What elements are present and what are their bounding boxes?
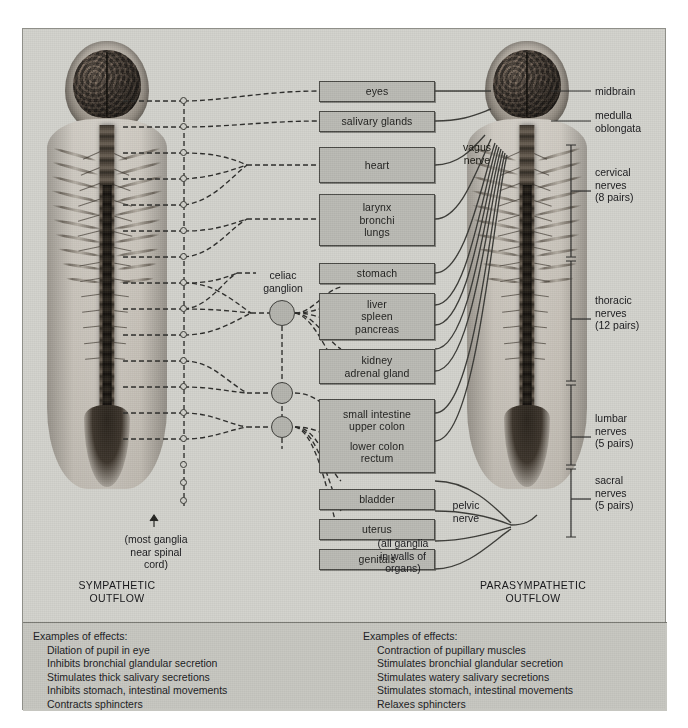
- all-ganglia-note: (all ganglia in walls of organs): [355, 537, 451, 575]
- effect-item: Contraction of pupillary muscles: [377, 644, 667, 658]
- effects-heading: Examples of effects:: [363, 630, 667, 644]
- effect-item: Stimulates stomach, intestinal movements: [377, 684, 667, 698]
- vagus-nerve-label: vagus nerve: [447, 141, 507, 166]
- effect-item: Dilation of pupil in eye: [47, 644, 345, 658]
- anatomy-label-lumbar-nerves: lumbar nerves (5 pairs): [595, 412, 634, 450]
- effects-heading: Examples of effects:: [33, 630, 345, 644]
- sympathetic-outflow-heading: SYMPATHETIC OUTFLOW: [47, 579, 187, 605]
- anatomy-label-cervical-nerves: cervical nerves (8 pairs): [595, 166, 634, 204]
- effect-item: Stimulates thick salivary secretions: [47, 671, 345, 685]
- organ-label: heart: [365, 159, 389, 172]
- organ-label: salivary glands: [342, 115, 413, 128]
- organ-label: bladder: [359, 493, 395, 506]
- anatomy-label-medulla-oblongata: medulla oblongata: [595, 109, 641, 134]
- heading-line: OUTFLOW: [47, 592, 187, 605]
- inferior-mesenteric-ganglion-node: [271, 416, 293, 438]
- organ-label: liver: [367, 298, 387, 311]
- anatomy-label-sacral-nerves: sacral nerves (5 pairs): [595, 474, 634, 512]
- organ-label: spleen: [361, 310, 393, 323]
- effect-item: Stimulates watery salivary secretions: [377, 671, 667, 685]
- organ-box-salivary-glands[interactable]: salivary glands: [319, 111, 435, 132]
- organ-box-kidney-adrenal-gland[interactable]: kidney adrenal gland: [319, 349, 435, 384]
- diagram-page: eyes salivary glands heart larynx bronch…: [0, 0, 688, 728]
- organ-label: eyes: [366, 85, 389, 98]
- anatomy-label-thoracic-nerves: thoracic nerves (12 pairs): [595, 294, 639, 332]
- parasympathetic-effects-panel: Examples of effects: Contraction of pupi…: [345, 622, 667, 711]
- organ-label: larynx: [363, 201, 392, 214]
- sympathetic-effects-panel: Examples of effects: Dilation of pupil i…: [23, 622, 345, 711]
- celiac-ganglion-node: [269, 300, 295, 326]
- organ-label: small intestine: [343, 408, 411, 421]
- organ-label: stomach: [357, 267, 397, 280]
- anatomy-label-midbrain: midbrain: [595, 85, 635, 98]
- effect-item: Contracts sphincters: [47, 698, 345, 712]
- organ-box-intestine-colon-rectum[interactable]: small intestine upper colon lower colon …: [319, 399, 435, 473]
- autonomic-nervous-system-figure: eyes salivary glands heart larynx bronch…: [22, 28, 666, 710]
- effect-item: Inhibits stomach, intestinal movements: [47, 684, 345, 698]
- heading-line: SYMPATHETIC: [47, 579, 187, 592]
- organ-box-larynx-bronchi-lungs[interactable]: larynx bronchi lungs: [319, 194, 435, 246]
- effect-item: Inhibits bronchial glandular secretion: [47, 657, 345, 671]
- organ-box-heart[interactable]: heart: [319, 147, 435, 183]
- organ-label: bronchi: [359, 214, 394, 227]
- heading-line: OUTFLOW: [443, 592, 623, 605]
- effect-item: Stimulates bronchial glandular secretion: [377, 657, 667, 671]
- most-ganglia-note: (most ganglia near spinal cord): [101, 533, 211, 571]
- pelvic-nerve-label: pelvic nerve: [435, 499, 497, 524]
- organ-label: rectum: [361, 452, 394, 465]
- organ-label: adrenal gland: [345, 367, 410, 380]
- organ-box-eyes[interactable]: eyes: [319, 81, 435, 102]
- celiac-ganglion-label: celiac ganglion: [241, 269, 325, 294]
- organ-label: kidney: [362, 354, 393, 367]
- superior-mesenteric-ganglion-node: [271, 382, 293, 404]
- organ-box-liver-spleen-pancreas[interactable]: liver spleen pancreas: [319, 293, 435, 340]
- organ-label: lungs: [364, 226, 390, 239]
- organ-label: uterus: [362, 523, 392, 536]
- organ-label: pancreas: [355, 323, 399, 336]
- heading-line: PARASYMPATHETIC: [443, 579, 623, 592]
- effect-item: Relaxes sphincters: [377, 698, 667, 712]
- organ-box-stomach[interactable]: stomach: [319, 263, 435, 284]
- parasympathetic-outflow-heading: PARASYMPATHETIC OUTFLOW: [443, 579, 623, 605]
- organ-label: upper colon: [349, 420, 405, 433]
- organ-box-bladder[interactable]: bladder: [319, 489, 435, 510]
- organ-label: lower colon: [350, 440, 404, 453]
